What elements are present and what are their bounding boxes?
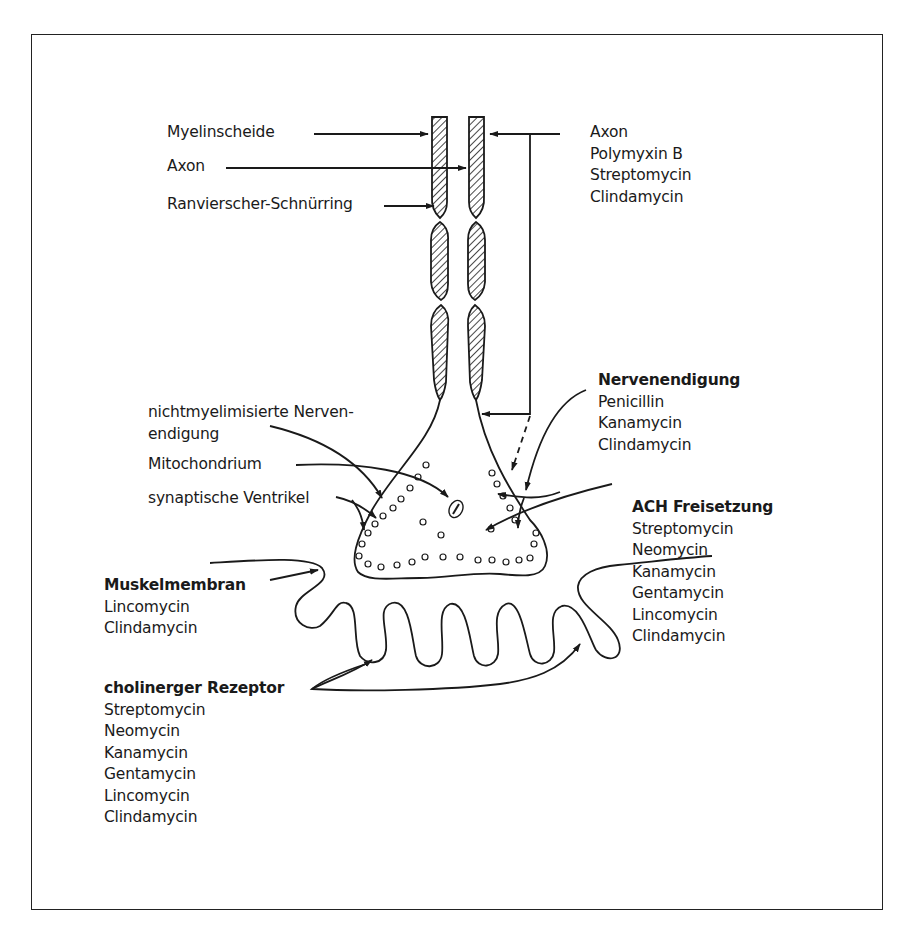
group-nervenendigung: Nervenendigung Penicillin Kanamycin Clin… [598, 370, 740, 456]
arrow-rezeptor-2 [312, 660, 372, 689]
group-axon-heading: Axon [590, 122, 691, 144]
arrow-nervenendigung [526, 390, 586, 490]
vesicle [378, 564, 384, 570]
group-muskel-item: Clindamycin [104, 618, 246, 640]
myelin-segment [468, 222, 485, 300]
group-ach-heading: ACH Freisetzung [632, 497, 773, 519]
group-axon-item: Streptomycin [590, 165, 691, 187]
group-ach-item: Lincomycin [632, 605, 773, 627]
vesicle [489, 557, 495, 563]
group-rezeptor-item: Gentamycin [104, 764, 284, 786]
label-ranvier: Ranvierscher-Schnürring [167, 194, 353, 215]
group-rezeptor-item: Clindamycin [104, 807, 284, 829]
group-nervenendigung-heading: Nervenendigung [598, 370, 740, 392]
vesicle [494, 481, 500, 487]
vesicle [420, 519, 426, 525]
vesicle [503, 559, 509, 565]
group-ach-freisetzung: ACH Freisetzung Streptomycin Neomycin Ka… [632, 497, 773, 648]
vesicle [398, 496, 404, 502]
vesicle [438, 532, 444, 538]
vesicle [527, 555, 533, 561]
group-axon: Axon Polymyxin B Streptomycin Clindamyci… [590, 122, 691, 208]
vesicle [390, 505, 396, 511]
vesicle [407, 485, 413, 491]
nerve-terminal-outline [354, 400, 547, 579]
vesicle [423, 462, 429, 468]
vesicle [394, 562, 400, 568]
vesicle [440, 554, 446, 560]
vesicle [512, 517, 518, 523]
group-rezeptor-item: Kanamycin [104, 743, 284, 765]
vesicle [372, 521, 378, 527]
group-nervenendigung-item: Clindamycin [598, 435, 740, 457]
group-ach-item: Clindamycin [632, 626, 773, 648]
vesicle [422, 554, 428, 560]
vesicle [475, 557, 481, 563]
group-muskel-item: Lincomycin [104, 597, 246, 619]
vesicle [531, 541, 537, 547]
vesicle [356, 553, 362, 559]
arrow-mitochondrium [296, 464, 448, 497]
group-rezeptor-item: Neomycin [104, 721, 284, 743]
vesicle [380, 513, 386, 519]
vesicle [359, 541, 365, 547]
vesicle [533, 530, 539, 536]
myelin-segment [469, 117, 484, 218]
group-ach-item: Gentamycin [632, 583, 773, 605]
myelin-sheath-left [431, 117, 448, 400]
label-myelinscheide: Myelinscheide [167, 122, 275, 143]
vesicle [409, 559, 415, 565]
group-rezeptor-item: Lincomycin [104, 786, 284, 808]
bracket-dashed [512, 416, 530, 470]
group-ach-item: Kanamycin [632, 562, 773, 584]
vesicle [365, 561, 371, 567]
axon-bracket [482, 134, 530, 414]
vesicle [365, 530, 371, 536]
label-synaptische: synaptische Ventrikel [148, 488, 309, 509]
group-rezeptor-item: Streptomycin [104, 700, 284, 722]
label-mitochondrium: Mitochondrium [148, 454, 262, 475]
arrow-rezeptor [312, 644, 580, 690]
mitochondrium-shape [446, 498, 465, 520]
group-ach-item: Neomycin [632, 540, 773, 562]
arrow-ach-2 [498, 492, 560, 498]
group-ach-item: Streptomycin [632, 519, 773, 541]
group-axon-item: Clindamycin [590, 187, 691, 209]
group-rezeptor-heading: cholinerger Rezeptor [104, 678, 284, 700]
group-cholinerger-rezeptor: cholinerger Rezeptor Streptomycin Neomyc… [104, 678, 284, 829]
label-nichtmyelin-line2: endigung [148, 424, 219, 445]
vesicle [457, 554, 463, 560]
myelin-sheath-right [468, 117, 485, 400]
myelin-segment [468, 305, 485, 400]
group-nervenendigung-item: Penicillin [598, 392, 740, 414]
myelin-segment [431, 222, 448, 300]
vesicle [516, 557, 522, 563]
group-muskelmembran: Muskelmembran Lincomycin Clindamycin [104, 575, 246, 640]
arrow-ach-1 [486, 484, 612, 530]
vesicle [489, 470, 495, 476]
myelin-segment [431, 305, 448, 400]
arrow-muskelmembran [270, 570, 318, 580]
group-axon-item: Polymyxin B [590, 144, 691, 166]
label-nichtmyelin-line1: nichtmyelimisierte Nerven- [148, 402, 354, 423]
group-muskel-heading: Muskelmembran [104, 575, 246, 597]
label-axon: Axon [167, 156, 205, 177]
vesicle [507, 505, 513, 511]
group-nervenendigung-item: Kanamycin [598, 413, 740, 435]
